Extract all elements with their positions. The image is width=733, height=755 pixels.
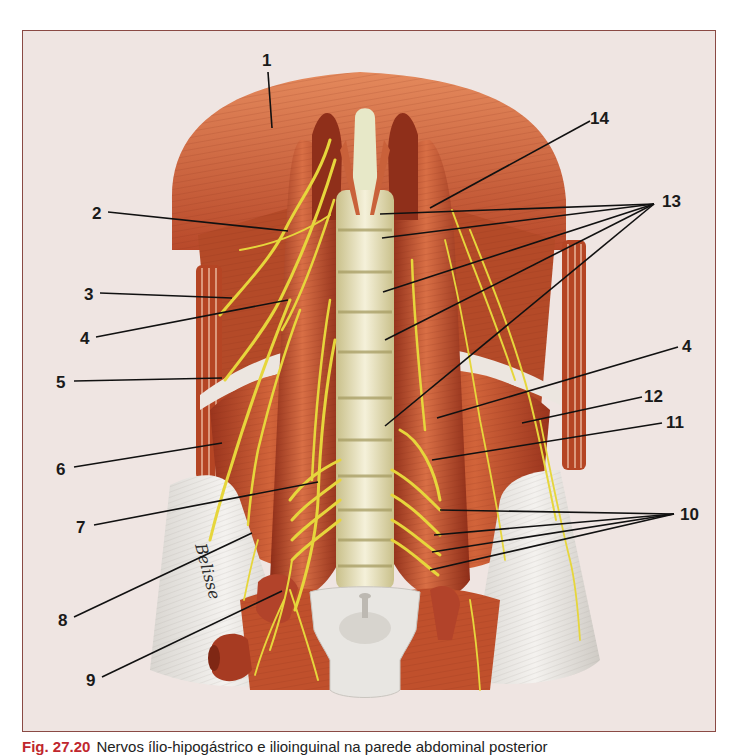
label-4a: 4 xyxy=(80,330,89,347)
label-6: 6 xyxy=(56,461,65,478)
label-13: 13 xyxy=(662,193,681,210)
label-14: 14 xyxy=(590,110,609,127)
label-1: 1 xyxy=(262,52,271,69)
label-12: 12 xyxy=(644,388,663,405)
figure-number: Fig. 27.20 xyxy=(22,738,90,755)
label-9: 9 xyxy=(86,672,95,689)
label-5: 5 xyxy=(56,374,65,391)
caption-text: Nervos ílio-hipogástrico e ilioinguinal … xyxy=(96,738,547,755)
label-2: 2 xyxy=(92,205,101,222)
label-8: 8 xyxy=(58,612,67,629)
label-3: 3 xyxy=(84,286,93,303)
label-11: 11 xyxy=(666,414,684,431)
label-10: 10 xyxy=(680,506,699,523)
label-4b: 4 xyxy=(682,338,691,355)
label-7: 7 xyxy=(76,519,85,536)
figure-caption: Fig. 27.20Nervos ílio-hipogástrico e ili… xyxy=(22,739,547,754)
